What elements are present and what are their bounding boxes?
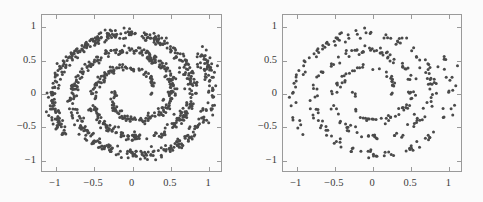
scatter-point [160, 132, 163, 135]
scatter-point [164, 111, 167, 114]
scatter-point [371, 68, 374, 71]
scatter-point [409, 74, 412, 77]
scatter-point [390, 75, 393, 78]
scatter-point [180, 146, 183, 149]
scatter-point [352, 146, 355, 149]
scatter-point [347, 37, 350, 40]
scatter-point [164, 127, 167, 130]
scatter-point [165, 62, 168, 65]
scatter-point [137, 46, 140, 49]
scatter-point [109, 49, 112, 52]
scatter-point [114, 51, 117, 54]
scatter-point [127, 138, 130, 141]
y-tick-label: 0.5 [252, 54, 277, 65]
scatter-point [112, 96, 115, 99]
scatter-point [169, 72, 172, 75]
scatter-point [363, 26, 366, 29]
scatter-point [173, 123, 176, 126]
scatter-point [57, 87, 60, 90]
scatter-point [61, 119, 64, 122]
scatter-point [160, 146, 163, 149]
scatter-point [179, 110, 182, 113]
scatter-point [210, 62, 213, 65]
scatter-point [293, 82, 296, 85]
scatter-point [184, 73, 187, 76]
scatter-point [338, 62, 341, 65]
scatter-point [82, 117, 85, 120]
scatter-point [315, 55, 318, 58]
scatter-point [332, 63, 335, 66]
scatter-point [63, 125, 66, 128]
scatter-point [190, 71, 193, 74]
scatter-point [52, 122, 55, 125]
scatter-point [402, 108, 405, 111]
scatter-point [171, 126, 174, 129]
scatter-point [429, 77, 432, 80]
scatter-figure: −1−0.500.51−1−0.500.51 −1−0.500.51−1−0.5… [0, 0, 483, 202]
scatter-point [113, 90, 116, 93]
scatter-point [60, 125, 63, 128]
y-tick-mark [457, 61, 461, 62]
scatter-point [121, 63, 124, 66]
scatter-point [295, 76, 298, 79]
scatter-point [345, 49, 348, 52]
scatter-point [339, 137, 342, 140]
scatter-point [209, 68, 212, 71]
x-tick-mark [94, 167, 95, 171]
scatter-point [68, 64, 71, 67]
scatter-point [147, 36, 150, 39]
scatter-point [158, 63, 161, 66]
scatter-point [316, 108, 319, 111]
scatter-point [364, 117, 367, 120]
scatter-point [196, 52, 199, 55]
scatter-point [149, 154, 152, 157]
scatter-point [99, 141, 102, 144]
y-tick-label: 0 [252, 88, 277, 99]
scatter-point [375, 137, 378, 140]
scatter-point [57, 84, 60, 87]
scatter-point [56, 62, 59, 65]
scatter-point [198, 122, 201, 125]
x-tick-label: −0.5 [324, 178, 343, 189]
scatter-point [125, 51, 128, 54]
scatter-point [157, 107, 160, 110]
scatter-point [418, 119, 421, 122]
scatter-point [85, 139, 88, 142]
scatter-point [111, 33, 114, 36]
scatter-point [401, 36, 404, 39]
y-tick-mark [457, 161, 461, 162]
scatter-point [99, 31, 102, 34]
scatter-point [120, 109, 123, 112]
scatter-point [130, 151, 133, 154]
scatter-point [183, 115, 186, 118]
scatter-point [107, 70, 110, 73]
scatter-point [188, 127, 191, 130]
scatter-point [188, 66, 191, 69]
scatter-point [385, 117, 388, 120]
scatter-point [147, 112, 150, 115]
scatter-point [347, 130, 350, 133]
scatter-point [122, 69, 125, 72]
x-tick-label: 1 [206, 178, 211, 189]
scatter-point [121, 132, 124, 135]
scatter-point [325, 42, 328, 45]
scatter-point [90, 142, 93, 145]
y-tick-mark [283, 27, 287, 28]
scatter-point [195, 84, 198, 87]
scatter-point [174, 51, 177, 54]
y-tick-label: 1 [252, 21, 277, 32]
scatter-point [117, 153, 120, 156]
scatter-point [205, 108, 208, 111]
scatter-point [294, 86, 297, 89]
scatter-point [185, 60, 188, 63]
scatter-point [360, 135, 363, 138]
scatter-point [163, 148, 166, 151]
y-tick-mark [42, 94, 46, 95]
scatter-point [79, 125, 82, 128]
scatter-point [141, 153, 144, 156]
scatter-point [362, 51, 365, 54]
y-tick-mark [283, 61, 287, 62]
scatter-point [199, 61, 202, 64]
scatter-point [451, 76, 454, 79]
scatter-point [61, 73, 64, 76]
